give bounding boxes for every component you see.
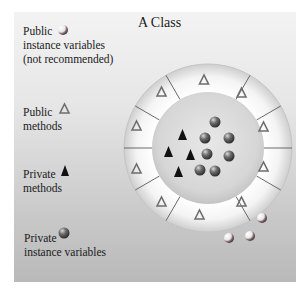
legend-private-method-icon <box>61 165 69 176</box>
legend-public-methods: Public methods <box>23 105 62 133</box>
legend-private-methods: Private methods <box>23 167 62 195</box>
legend-private-variables: Private instance variables <box>24 231 106 259</box>
diagram-title: A Class <box>138 15 181 31</box>
legend-public-variables: Public instance variables (not recommend… <box>23 24 113 66</box>
